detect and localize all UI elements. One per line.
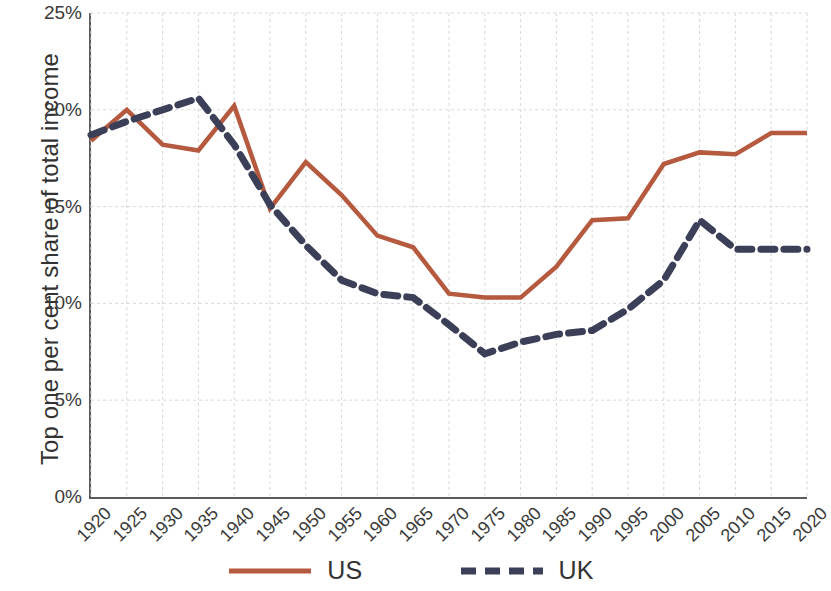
legend-entry-uk: UK [459, 556, 594, 585]
chart-legend: US UK [0, 556, 821, 585]
legend-swatch-uk [459, 565, 545, 577]
legend-label-uk: UK [559, 556, 594, 585]
legend-label-us: US [327, 556, 362, 585]
legend-entry-us: US [227, 556, 362, 585]
legend-swatch-us [227, 565, 313, 577]
